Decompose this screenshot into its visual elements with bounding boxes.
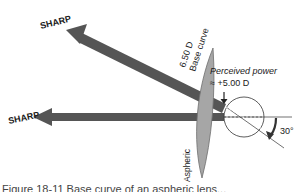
sharp-label-top: SHARP bbox=[39, 14, 72, 31]
angle-label: 30° bbox=[280, 126, 294, 136]
aspheric-label: Aspheric bbox=[182, 148, 192, 182]
angle-arc-arrow bbox=[271, 118, 276, 135]
diagram-canvas: SHARP SHARP 6.50 D Base curve Perceived … bbox=[0, 0, 303, 192]
sharp-label-bottom: SHARP bbox=[7, 110, 40, 126]
horizontal-ray-arrow bbox=[33, 108, 224, 126]
perceived-power-label: Perceived power bbox=[210, 66, 278, 76]
figure-caption: Figure 18-11 Base curve of an aspheric l… bbox=[2, 183, 226, 192]
perceived-power-value: ≈ +5.00 D bbox=[210, 78, 250, 88]
